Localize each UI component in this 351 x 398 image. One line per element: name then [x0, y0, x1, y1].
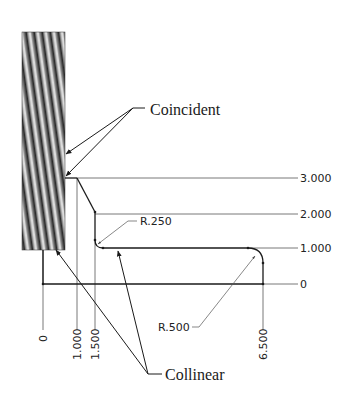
dim-6500-vertical[interactable]: 6.500	[257, 329, 270, 361]
coincident-label: Coincident	[150, 101, 221, 118]
dim-1500-vertical[interactable]: 1.500	[89, 329, 102, 361]
cable-rod	[22, 32, 65, 250]
dimension-lines	[43, 178, 298, 330]
dim-1000-vertical[interactable]: 1.000	[71, 329, 84, 361]
dim-2000[interactable]: 2.000	[300, 208, 332, 221]
dim-0-vertical[interactable]: 0	[37, 335, 50, 342]
collinear-label: Collinear	[165, 366, 225, 383]
radius-250[interactable]: R.250	[140, 215, 172, 228]
radius-500[interactable]: R.500	[158, 321, 190, 334]
sketch-drawing: Coincident Collinear 3.000 2.000 1.000 0…	[0, 0, 351, 398]
dim-1000[interactable]: 1.000	[300, 242, 332, 255]
dim-0-horizontal[interactable]: 0	[300, 278, 307, 291]
sketch-profile	[43, 178, 263, 284]
coincident-leaders	[66, 108, 145, 176]
radius-leaders	[98, 221, 255, 327]
dim-3000[interactable]: 3.000	[300, 172, 332, 185]
